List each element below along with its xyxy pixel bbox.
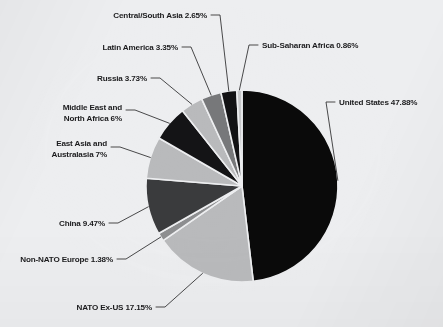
slice-label-east-asia-australasia-line2: Australasia 7%	[52, 150, 108, 159]
slice-label-latin-america: Latin America 3.35%	[102, 43, 178, 52]
slice-label-nato-ex-us: NATO Ex-US 17.15%	[77, 303, 152, 312]
slice-label-russia: Russia 3.73%	[97, 74, 147, 83]
slice-label-middle-east-north-africa-line2: North Africa 6%	[64, 114, 122, 123]
slice-label-united-states: United States 47.88%	[339, 98, 417, 107]
pie-chart-svg: Central/South Asia 2.65% Latin America 3…	[0, 0, 443, 327]
slice-label-east-asia-australasia-line1: East Asia and	[56, 139, 107, 148]
slice-label-china: China 9.47%	[59, 219, 105, 228]
slice-label-middle-east-north-africa-line1: Middle East and	[63, 103, 123, 112]
slice-label-central-south-asia: Central/South Asia 2.65%	[113, 11, 207, 20]
pie-slices-group	[146, 90, 338, 282]
slice-label-sub-saharan-africa: Sub-Saharan Africa 0.86%	[262, 41, 358, 50]
slice-label-non-nato-europe: Non-NATO Europe 1.38%	[20, 255, 113, 264]
pie-chart-figure: Central/South Asia 2.65% Latin America 3…	[0, 0, 443, 327]
